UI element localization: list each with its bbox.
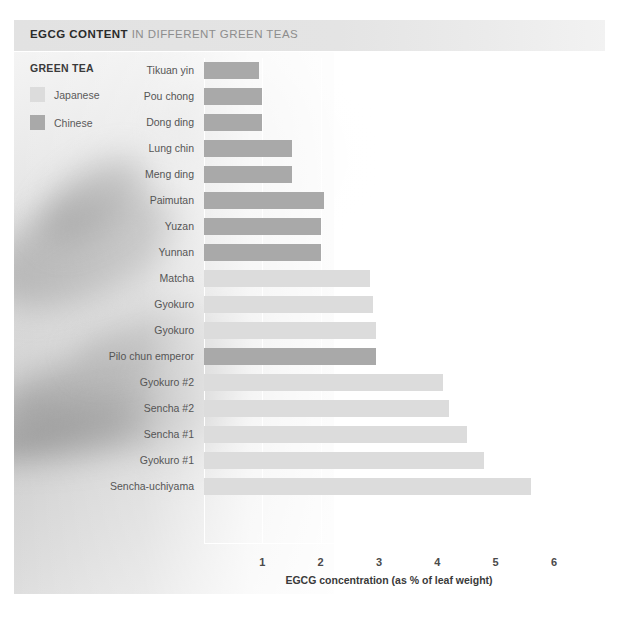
gridline-6 (554, 58, 555, 543)
category-label: Sencha-uchiyama (110, 478, 194, 495)
bar-row: Sencha-uchiyama (204, 474, 554, 500)
bar-japanese (204, 452, 484, 469)
x-tick-1: 1 (259, 556, 265, 568)
bar-row: Pou chong (204, 84, 554, 110)
bar-row: Matcha (204, 266, 554, 292)
bar-row: Sencha #1 (204, 422, 554, 448)
category-label: Pou chong (144, 88, 194, 105)
bar-row: Yunnan (204, 240, 554, 266)
figure-title-rest: IN DIFFERENT GREEN TEAS (128, 28, 298, 40)
figure-title-bar: EGCG CONTENT IN DIFFERENT GREEN TEAS (14, 20, 605, 52)
figure-title: EGCG CONTENT IN DIFFERENT GREEN TEAS (30, 28, 298, 40)
x-tick-3: 3 (376, 556, 382, 568)
category-label: Tikuan yin (147, 62, 194, 79)
legend-swatch-chinese (30, 115, 45, 130)
bar-row: Lung chin (204, 136, 554, 162)
bar-row: Paimutan (204, 188, 554, 214)
category-label: Paimutan (150, 192, 194, 209)
plot-area: 123456Tikuan yinPou chongDong dingLung c… (204, 58, 574, 550)
bar-chinese (204, 244, 321, 261)
category-label: Yuzan (165, 218, 194, 235)
bar-row: Gyokuro (204, 318, 554, 344)
category-label: Gyokuro #1 (140, 452, 194, 469)
category-label: Dong ding (146, 114, 194, 131)
category-label: Gyokuro (154, 296, 194, 313)
bar-row: Yuzan (204, 214, 554, 240)
bar-row: Gyokuro #2 (204, 370, 554, 396)
bar-row: Pilo chun emperor (204, 344, 554, 370)
bar-japanese (204, 322, 376, 339)
legend-swatch-japanese (30, 87, 45, 102)
bar-chinese (204, 218, 321, 235)
bar-row: Gyokuro (204, 292, 554, 318)
category-label: Meng ding (145, 166, 194, 183)
category-label: Sencha #1 (144, 426, 194, 443)
figure-panel: EGCG CONTENT IN DIFFERENT GREEN TEAS GRE… (14, 20, 605, 594)
bar-row: Meng ding (204, 162, 554, 188)
category-label: Lung chin (148, 140, 194, 157)
bar-chinese (204, 348, 376, 365)
category-label: Yunnan (158, 244, 194, 261)
legend-label-japanese: Japanese (54, 89, 100, 101)
category-label: Gyokuro #2 (140, 374, 194, 391)
bar-chinese (204, 114, 262, 131)
x-axis-line (204, 543, 554, 544)
figure-title-strong: EGCG CONTENT (30, 28, 128, 40)
bar-japanese (204, 296, 373, 313)
x-tick-6: 6 (551, 556, 557, 568)
bar-chinese (204, 192, 324, 209)
x-tick-2: 2 (318, 556, 324, 568)
chart-canvas: GREEN TEA Japanese Chinese 123456Tikuan … (14, 52, 605, 594)
bar-row: Dong ding (204, 110, 554, 136)
legend-label-chinese: Chinese (54, 117, 93, 129)
bar-chinese (204, 88, 262, 105)
bar-chinese (204, 62, 259, 79)
bar-japanese (204, 374, 443, 391)
bar-row: Tikuan yin (204, 58, 554, 84)
bar-row: Gyokuro #1 (204, 448, 554, 474)
category-label: Gyokuro (154, 322, 194, 339)
category-label: Matcha (160, 270, 194, 287)
bar-chinese (204, 166, 292, 183)
category-label: Sencha #2 (144, 400, 194, 417)
x-tick-5: 5 (493, 556, 499, 568)
category-label: Pilo chun emperor (109, 348, 194, 365)
bar-japanese (204, 478, 531, 495)
bar-japanese (204, 270, 370, 287)
x-axis-label: EGCG concentration (as % of leaf weight) (204, 574, 574, 586)
bar-chinese (204, 140, 292, 157)
bar-japanese (204, 426, 467, 443)
bar-japanese (204, 400, 449, 417)
x-tick-4: 4 (434, 556, 440, 568)
bar-row: Sencha #2 (204, 396, 554, 422)
